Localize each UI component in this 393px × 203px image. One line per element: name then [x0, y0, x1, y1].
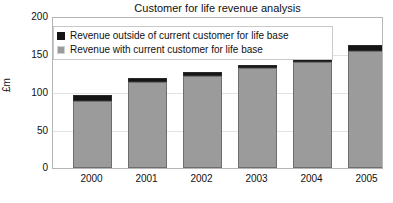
- bar-2002-segment-with-base: [183, 76, 222, 168]
- x-tick-2003: 2003: [237, 172, 276, 185]
- y-tick-100: 100: [2, 88, 48, 98]
- bar-2003-segment-with-base: [238, 68, 277, 168]
- revenue-bar-chart: Customer for life revenue analysis £m 20…: [0, 0, 393, 203]
- y-tick-200: 200: [2, 12, 48, 22]
- bar-2004-segment-with-base: [293, 62, 332, 168]
- bar-2000-segment-with-base: [73, 101, 112, 168]
- bar-2005: [348, 45, 383, 168]
- bar-2001-segment-with-base: [128, 82, 167, 168]
- bar-2004: [293, 57, 332, 168]
- bar-2000-segment-outside-base: [73, 95, 112, 101]
- legend-entry-outside-base: Revenue outside of current customer for …: [57, 29, 329, 42]
- dark-square-icon: [57, 32, 65, 40]
- bar-2002-segment-outside-base: [183, 72, 222, 76]
- x-tick-2005: 2005: [347, 172, 386, 185]
- x-tick-2000: 2000: [72, 172, 111, 185]
- bar-2003: [238, 65, 277, 168]
- y-tick-50: 50: [2, 126, 48, 136]
- bar-2005-segment-with-base: [348, 51, 383, 168]
- x-tick-2001: 2001: [127, 172, 166, 185]
- x-tick-2002: 2002: [182, 172, 221, 185]
- bar-2001-segment-outside-base: [128, 78, 167, 82]
- chart-legend: Revenue outside of current customer for …: [53, 26, 333, 60]
- bar-2003-segment-outside-base: [238, 65, 277, 68]
- y-tick-150: 150: [2, 50, 48, 60]
- y-tick-0: 0: [2, 163, 48, 173]
- y-axis-ticks: 200 150 100 50 0: [0, 0, 48, 203]
- x-axis-ticks: 2000 2001 2002 2003 2004 2005: [52, 172, 383, 190]
- bar-2005-segment-outside-base: [348, 45, 383, 51]
- bar-2001: [128, 78, 167, 168]
- x-tick-2004: 2004: [292, 172, 331, 185]
- gray-square-icon: [57, 46, 65, 54]
- legend-label-with-base: Revenue with current customer for life b…: [70, 44, 263, 55]
- chart-title: Customer for life revenue analysis: [52, 1, 383, 15]
- bar-2000: [73, 95, 112, 168]
- legend-label-outside-base: Revenue outside of current customer for …: [70, 30, 288, 41]
- bar-2002: [183, 72, 222, 168]
- legend-entry-with-base: Revenue with current customer for life b…: [57, 43, 329, 56]
